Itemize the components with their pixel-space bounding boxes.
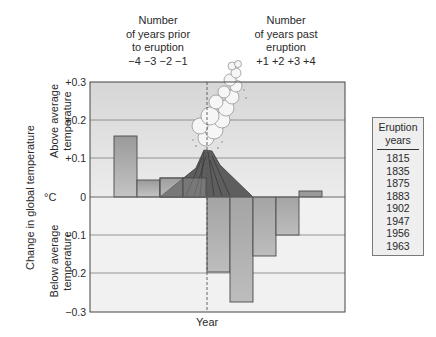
legend-title-line: years: [373, 134, 423, 147]
eruption-year: 1956: [373, 227, 423, 240]
bar-plus5: [299, 191, 322, 197]
bar-minus3: [137, 180, 160, 197]
chart-plot: [0, 0, 436, 337]
eruption-year: 1835: [373, 165, 423, 178]
bar-plus1: [207, 197, 230, 272]
x-axis-label: Year: [196, 316, 218, 328]
eruption-year: 1947: [373, 215, 423, 228]
eruption-years-legend: Eruption years 1815 1835 1875 1883 1902 …: [372, 117, 424, 256]
bar-plus3: [253, 197, 276, 256]
bar-plus4: [276, 197, 299, 235]
eruption-year: 1815: [373, 152, 423, 165]
bar-plus2: [230, 197, 253, 302]
bar-minus4: [114, 136, 137, 197]
eruption-year: 1875: [373, 177, 423, 190]
legend-divider: [377, 149, 419, 150]
legend-title-line: Eruption: [373, 121, 423, 134]
eruption-year: 1902: [373, 202, 423, 215]
eruption-year: 1963: [373, 240, 423, 253]
eruption-year: 1883: [373, 190, 423, 203]
legend-title: Eruption years: [373, 118, 423, 147]
